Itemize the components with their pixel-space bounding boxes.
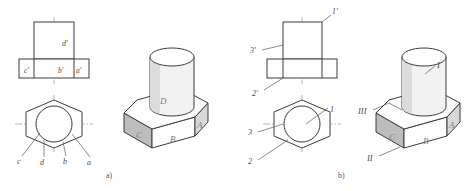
iso-b-label-roman-II: II (366, 153, 374, 163)
iso-b-cylinder-shade (402, 57, 412, 114)
iso-a-label-D: D (159, 96, 167, 106)
iso-b-label-B: B (423, 136, 429, 146)
front-b-label-2-prime: 2′ (252, 89, 258, 98)
caption-b: b) (338, 171, 345, 180)
iso-a-label-B: B (170, 134, 176, 144)
leader-b-1-prime (322, 15, 331, 22)
circle-b (284, 106, 320, 142)
bottom-view-b: 1 3 2 (247, 95, 341, 166)
front-a-upper-rect (34, 22, 74, 59)
bottom-b-label-1: 1 (330, 105, 334, 114)
front-b-label-3-prime: 3′ (249, 46, 256, 55)
caption-a: a) (106, 171, 113, 180)
iso-a-cylinder-shade (150, 57, 160, 114)
leader-b-2 (258, 140, 288, 160)
bottom-b-label-2: 2 (248, 157, 252, 166)
front-view-a: d′ c′ b′ a′ (19, 17, 89, 84)
leader-b-3-prime (262, 45, 283, 50)
iso-a-label-A: A (196, 120, 203, 130)
iso-b-label-roman-III: III (357, 106, 368, 116)
front-b-upper-rect (283, 22, 322, 59)
front-a-label-b-prime: b′ (58, 66, 64, 75)
leader-a-b (63, 142, 66, 156)
engineering-figure: d′ c′ b′ a′ c d b a (0, 0, 468, 191)
isometric-view-b: I III II C B A (357, 48, 460, 163)
front-view-b: 1′ 3′ 2′ (249, 7, 338, 98)
iso-a-label-C: C (136, 130, 143, 140)
figure-canvas: d′ c′ b′ a′ c d b a (0, 0, 468, 191)
bottom-view-a: c d b a (15, 95, 93, 167)
isometric-view-a: D C B A (124, 48, 208, 148)
front-b-label-1-prime: 1′ (332, 7, 338, 16)
front-b-lower-rect (267, 59, 337, 78)
bottom-b-label-3: 3 (247, 128, 252, 137)
iso-a-cylinder-top (150, 48, 194, 66)
bottom-a-label-c: c (17, 157, 21, 166)
front-a-label-c-prime: c′ (24, 66, 29, 75)
front-a-label-d-prime: d′ (62, 39, 68, 48)
front-a-label-a-prime: a′ (76, 66, 82, 75)
iso-b-label-A: A (448, 120, 455, 130)
iso-b-label-C: C (389, 132, 396, 142)
bottom-a-label-d: d (40, 158, 45, 167)
leader-b-2-prime (264, 78, 283, 90)
leader-b-roman-II (379, 147, 400, 156)
leader-a-a (72, 134, 90, 157)
circle-a (36, 106, 72, 142)
bottom-a-label-a: a (87, 158, 91, 167)
bottom-a-label-b: b (63, 157, 67, 166)
